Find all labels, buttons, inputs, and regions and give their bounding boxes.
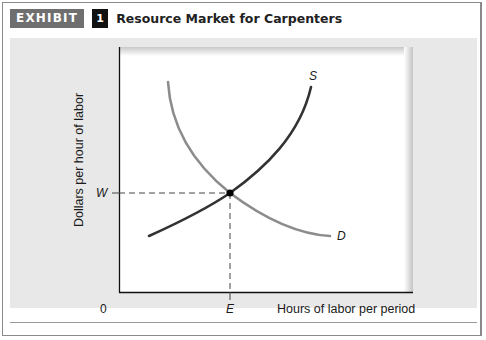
y-axis-title: Dollars per hour of labor bbox=[72, 93, 86, 227]
supply-label: S bbox=[309, 69, 317, 83]
e-label: E bbox=[226, 302, 235, 316]
supply-demand-chart: S D W E 0 Hours of labor per period Doll… bbox=[0, 0, 486, 340]
equilibrium-point bbox=[226, 189, 233, 196]
w-label: W bbox=[96, 186, 109, 200]
x-axis-title: Hours of labor per period bbox=[277, 302, 415, 316]
origin-label: 0 bbox=[100, 302, 107, 316]
plot-area bbox=[119, 47, 413, 292]
demand-label: D bbox=[337, 229, 346, 243]
